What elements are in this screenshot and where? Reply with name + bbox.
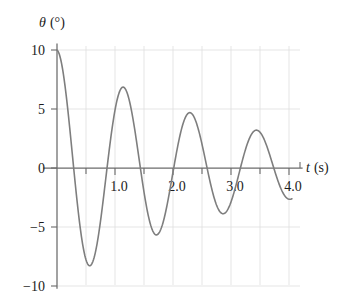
svg-text:θ(°): θ(°) (39, 15, 65, 31)
y-tick-label-minus5: −5 (30, 220, 45, 235)
svg-text:t(s): t(s) (306, 160, 329, 176)
x-tick-label-4: 4.0 (284, 179, 302, 194)
y-tick-label-minus10: −10 (23, 279, 45, 294)
y-tick-label-10: 10 (31, 43, 45, 58)
damped-oscillation-chart: 10 5 0 −5 −10 1.0 2.0 3.0 4.0 θ(°) t(s) (0, 0, 342, 298)
y-axis-unit: (°) (50, 15, 65, 31)
damped-oscillation-curve (57, 50, 292, 266)
chart-figure: 10 5 0 −5 −10 1.0 2.0 3.0 4.0 θ(°) t(s) (0, 0, 342, 298)
y-axis-symbol: θ (39, 15, 46, 30)
x-axis-unit: (s) (314, 160, 329, 176)
x-axis-symbol: t (306, 160, 311, 175)
x-axis-title: t(s) (306, 160, 329, 176)
x-tick-label-1: 1.0 (110, 179, 128, 194)
y-tick-label-5: 5 (38, 102, 45, 117)
y-axis-title: θ(°) (39, 15, 65, 31)
vertical-gridlines (86, 46, 289, 285)
y-tick-labels: 10 5 0 −5 −10 (23, 43, 45, 294)
y-axis-ticks (51, 50, 57, 286)
y-tick-label-0: 0 (38, 161, 45, 176)
x-tick-labels: 1.0 2.0 3.0 4.0 (110, 179, 302, 194)
